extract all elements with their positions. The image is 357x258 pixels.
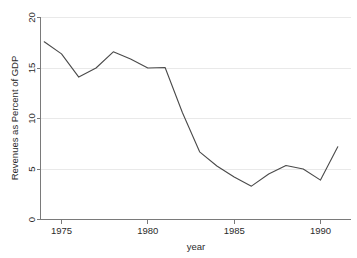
chart-figure: 20 15 10 5 0 Revenues as Percent of GDP … [0,0,357,258]
y-tick-label-0: 0 [26,217,37,222]
series-line-revenues [44,42,338,186]
x-tick-label-1980: 1980 [137,225,158,236]
x-tick-label-1975: 1975 [51,225,72,236]
gridlines-group [41,18,351,170]
x-axis-title: year [187,241,205,252]
y-axis-title: Revenues as Percent of GDP [9,56,20,181]
y-tick-label-10: 10 [26,113,37,124]
y-tick-label-15: 15 [26,63,37,74]
x-tick-label-1990: 1990 [310,225,331,236]
y-tick-label-5: 5 [26,166,37,171]
y-axis-group: 20 15 10 5 0 Revenues as Percent of GDP [9,12,41,222]
y-tick-label-20: 20 [26,12,37,23]
line-chart-plot: 20 15 10 5 0 Revenues as Percent of GDP … [0,0,357,258]
x-tick-label-1985: 1985 [224,225,245,236]
x-axis-group: 1975 1980 1985 1990 year [41,220,351,253]
